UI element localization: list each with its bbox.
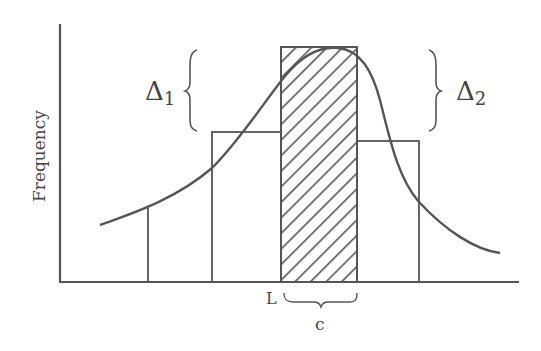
delta2-brace <box>429 50 441 131</box>
class-width-label: c <box>315 314 325 334</box>
y-axis-label: Frequency <box>29 110 49 202</box>
bar-class-2 <box>212 132 281 282</box>
diagram-canvas: Δ1 Δ2 L c Frequency <box>0 0 541 351</box>
histogram-diagram: Δ1 Δ2 L c Frequency <box>0 0 541 351</box>
delta2-label: Δ2 <box>456 76 486 109</box>
bar-modal-class <box>281 47 357 282</box>
bar-class-4 <box>357 141 419 282</box>
class-width-brace <box>284 293 357 307</box>
delta1-brace <box>185 50 197 131</box>
lower-limit-label: L <box>266 289 277 308</box>
delta1-label: Δ1 <box>145 76 175 109</box>
